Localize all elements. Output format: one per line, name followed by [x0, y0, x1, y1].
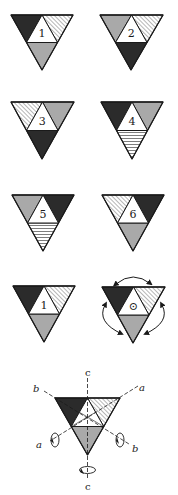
- puzzle-piece: 2: [100, 15, 163, 70]
- axis-a-label-bottom: a: [36, 439, 42, 450]
- face-bottom: [29, 314, 60, 342]
- puzzle-piece: 1: [11, 15, 73, 70]
- axis-b-label-top: b: [33, 383, 39, 394]
- axis-a-label-top: a: [139, 382, 145, 393]
- puzzle-piece-rotation: ⊙: [102, 287, 165, 343]
- puzzle-piece: 5: [12, 195, 74, 251]
- puzzle-piece: 6: [102, 195, 164, 251]
- face-bottom: [118, 223, 149, 251]
- piece-label: 5: [40, 208, 47, 221]
- rotation-arrow-top: [116, 277, 151, 284]
- puzzle-piece: 4: [101, 102, 163, 159]
- rotation-curl-a: [51, 433, 59, 447]
- piece-label: 4: [129, 115, 136, 128]
- axis-c-label-bottom: c: [85, 481, 91, 492]
- face-bottom: [116, 43, 148, 71]
- piece-label: 6: [130, 208, 137, 221]
- face-bottom: [28, 223, 59, 251]
- face-bottom: [117, 131, 148, 160]
- face-bottom: [27, 131, 59, 160]
- axis-c-label-top: c: [85, 367, 91, 378]
- axes-diagram: c c a a b b: [33, 367, 145, 492]
- piece-label: 3: [39, 115, 46, 128]
- puzzle-piece: 3: [11, 102, 74, 159]
- piece-label: 2: [128, 27, 135, 40]
- face-bottom: [118, 315, 150, 343]
- axis-b-label-bottom: b: [132, 443, 138, 454]
- piece-label: 1: [39, 27, 46, 40]
- piece-label: ⊙: [129, 300, 138, 313]
- piece-label: 1: [41, 299, 48, 312]
- puzzle-piece: 1: [13, 286, 75, 342]
- face-bottom: [27, 43, 58, 71]
- triangle-puzzle-diagram: 1 2 3 4 5 6 1 ⊙ c c a a b b: [0, 0, 178, 495]
